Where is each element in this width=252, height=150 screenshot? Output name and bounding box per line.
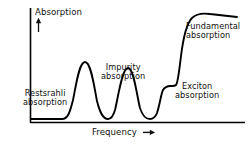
y-axis-arrow-icon (36, 18, 41, 32)
annotation-exciton-line2: absorption (175, 91, 219, 100)
x-axis-label: Frequency (92, 128, 137, 137)
y-axis-label: Absorption (35, 8, 82, 17)
annotation-fundamental-absorption: Fundamental absorption (186, 22, 240, 41)
annotation-fundamental-line2: absorption (186, 31, 240, 40)
annotation-reststrahlen-absorption: Restsrahli absorption (23, 89, 67, 108)
absorption-spectrum-figure: Absorption Restsrahli absorption Impurit… (0, 0, 252, 150)
annotation-impurity-absorption: Impurity absorption (101, 63, 145, 82)
x-axis-arrow-icon (143, 130, 155, 135)
annotation-exciton-absorption: Exciton absorption (175, 82, 219, 101)
annotation-impurity-line2: absorption (101, 72, 145, 81)
annotation-reststrahlen-line2: absorption (23, 98, 67, 107)
